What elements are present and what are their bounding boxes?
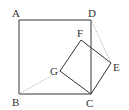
label-c: C (86, 97, 93, 109)
label-g: G (50, 65, 58, 77)
geometry-diagram: A D F G E B C (0, 0, 129, 110)
dotted-segment-de (91, 20, 111, 63)
square-cefg (60, 40, 111, 94)
label-b: B (12, 96, 19, 108)
label-e: E (113, 61, 120, 73)
label-d: D (88, 7, 96, 19)
label-f: F (77, 27, 83, 39)
label-a: A (12, 7, 20, 19)
